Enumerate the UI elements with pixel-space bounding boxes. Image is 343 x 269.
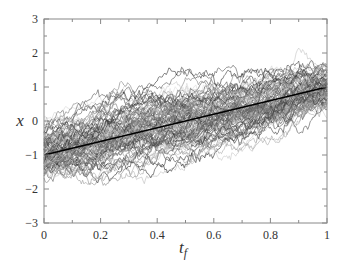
x-axis-label-subscript: f [184, 246, 189, 260]
x-tick-label: 0.6 [206, 228, 221, 242]
x-tick-label: 0.4 [150, 228, 165, 242]
x-tick-label: 1 [324, 228, 330, 242]
chart: 00.20.40.60.81 −3−2−10123 x tf [0, 0, 343, 269]
y-tick-label: −1 [25, 148, 38, 162]
x-axis-label: tf [179, 238, 189, 260]
x-tick-label: 0.8 [263, 228, 278, 242]
y-tick-labels: −3−2−10123 [25, 12, 38, 230]
y-tick-label: 1 [32, 80, 38, 94]
x-tick-label: 0.2 [93, 228, 108, 242]
y-tick-label: 3 [32, 12, 38, 26]
x-tick-labels: 00.20.40.60.81 [41, 228, 330, 242]
y-tick-label: −3 [25, 216, 38, 230]
sample-paths [44, 48, 327, 185]
x-tick-label: 0 [41, 228, 47, 242]
y-tick-label: 2 [32, 46, 38, 60]
y-tick-label: −2 [25, 182, 38, 196]
y-axis-label: x [15, 111, 24, 130]
y-tick-label: 0 [32, 114, 38, 128]
